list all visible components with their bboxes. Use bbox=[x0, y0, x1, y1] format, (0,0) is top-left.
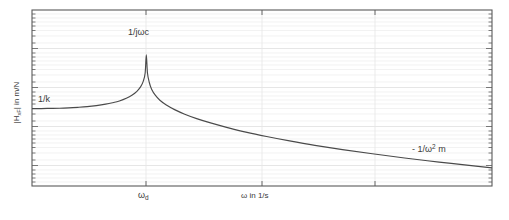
x-tick-label-omega-d: ωd bbox=[138, 191, 149, 201]
y-axis-label: |HxF| in m/N bbox=[13, 63, 22, 143]
omega-symbol: ω bbox=[138, 190, 145, 200]
annotation-mass-prefix: - 1/ω bbox=[412, 144, 432, 154]
annotation-stiffness: 1/k bbox=[38, 95, 50, 104]
annotation-mass-suffix: m bbox=[436, 144, 446, 154]
frequency-response-figure: 1/jωc 1/k - 1/ω2 m ωd ω in 1/s |HxF| in … bbox=[0, 0, 509, 220]
annotation-damping-peak: 1/jωc bbox=[128, 28, 149, 37]
x-axis-label: ω in 1/s bbox=[241, 192, 269, 200]
y-label-subscript: xF bbox=[16, 109, 22, 115]
y-label-prefix: |H bbox=[12, 116, 21, 124]
omega-subscript: d bbox=[145, 194, 149, 201]
plot-canvas bbox=[0, 0, 509, 220]
annotation-mass: - 1/ω2 m bbox=[412, 144, 446, 154]
y-label-suffix: | in m/N bbox=[12, 82, 21, 109]
